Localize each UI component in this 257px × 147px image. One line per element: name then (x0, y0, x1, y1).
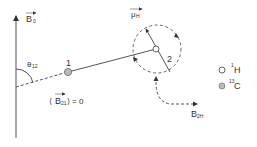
open-circle-icon (219, 67, 225, 73)
b21-sub: 21 (61, 100, 67, 106)
legend-text: H (234, 65, 241, 75)
right-arrow-icon (193, 102, 198, 107)
b2h-label-group: B 2H (191, 109, 204, 119)
theta-sub: 12 (32, 63, 38, 69)
bracket-open: ⟨ (49, 97, 52, 106)
b0-field-axis: B 0 (16, 13, 36, 138)
dipolar-coupling-diagram: B 0 θ 12 1 2 μ H ⟨ B 21 ⟩ = 0 (0, 0, 257, 147)
legend-text: C (234, 81, 241, 91)
legend-item-1h: 1 H (219, 62, 241, 75)
atom-1-label: 1 (66, 58, 71, 68)
atom-1: 1 (64, 58, 71, 76)
legend: 1 H 13 C (219, 62, 241, 91)
mu-sub: H (136, 13, 140, 19)
local-field-curve-dashed (156, 82, 194, 104)
atom-2: 2 (153, 46, 172, 64)
hydrogen-atom-icon (153, 46, 159, 52)
atom-2-label: 2 (167, 54, 172, 64)
legend-item-13c: 13 C (219, 78, 241, 91)
b2h-sub: 2H (197, 113, 204, 119)
rotation-arrow-icon (174, 33, 179, 38)
angle-theta12: θ 12 (16, 60, 38, 83)
bracket-close: ⟩ (67, 97, 70, 106)
moment-label: μ H (130, 9, 142, 19)
angle-arc-icon (16, 69, 33, 83)
internuclear-extension-dashed (16, 73, 64, 87)
average-field-equation: ⟨ B 21 ⟩ = 0 (49, 94, 84, 106)
up-arrow-icon (154, 76, 159, 81)
carbon-atom-icon (64, 68, 71, 75)
rotation-arrow-icon (133, 57, 138, 62)
b0-label: B (26, 14, 32, 24)
filled-circle-icon (219, 83, 225, 89)
b0-sub: 0 (33, 18, 36, 24)
equals-zero: = 0 (72, 97, 84, 106)
